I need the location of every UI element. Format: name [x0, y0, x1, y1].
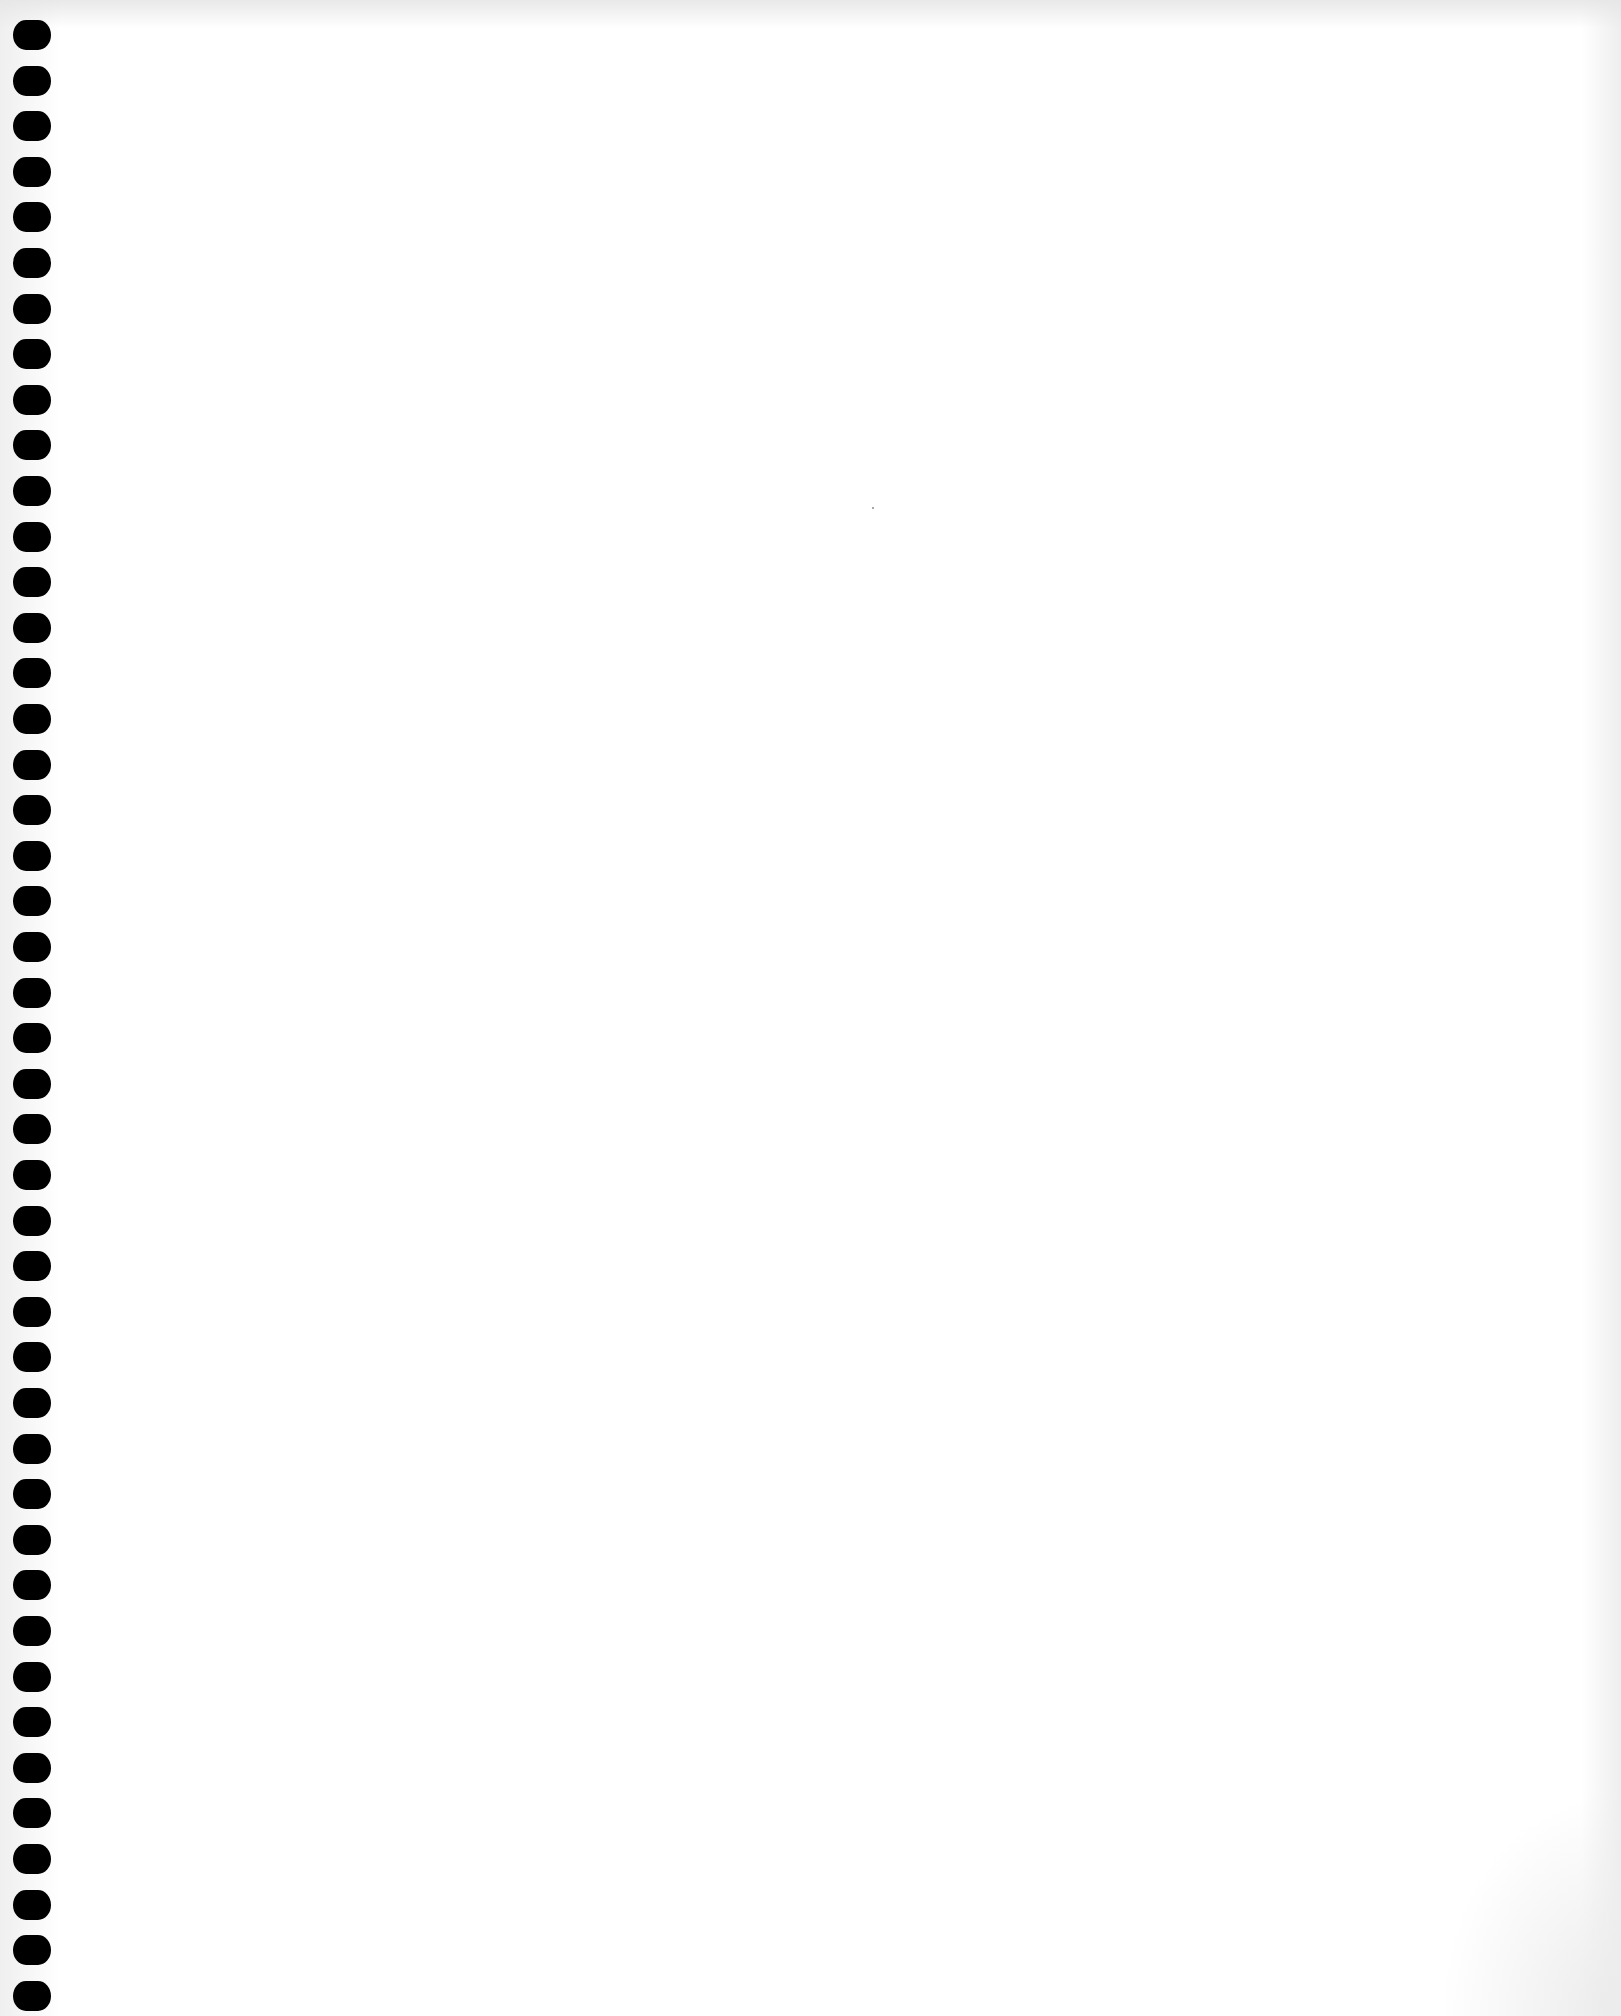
binding-hole — [13, 111, 51, 141]
binding-hole — [13, 1616, 51, 1646]
binding-hole — [13, 613, 51, 643]
binding-hole — [13, 1662, 51, 1692]
binding-hole — [13, 658, 51, 688]
binding-hole — [13, 1342, 51, 1372]
binding-hole — [13, 476, 51, 506]
binding-hole — [13, 1844, 51, 1874]
binding-hole — [13, 1160, 51, 1190]
binding-hole — [13, 1388, 51, 1418]
binding-hole — [13, 841, 51, 871]
binding-hole — [13, 1981, 51, 2011]
binding-hole — [13, 1297, 51, 1327]
binding-hole — [13, 567, 51, 597]
binding-hole — [13, 1114, 51, 1144]
binding-hole — [13, 750, 51, 780]
binding-hole — [13, 1935, 51, 1965]
binding-hole — [13, 1434, 51, 1464]
binding-hole — [13, 1525, 51, 1555]
binding-hole — [13, 1570, 51, 1600]
binding-hole — [13, 385, 51, 415]
binding-hole — [13, 1479, 51, 1509]
binding-hole — [13, 1023, 51, 1053]
binding-hole — [13, 1251, 51, 1281]
binding-hole — [13, 66, 51, 96]
binding-hole — [13, 202, 51, 232]
binding-hole — [13, 1069, 51, 1099]
spiral-binding-holes — [13, 20, 55, 2010]
binding-hole — [13, 294, 51, 324]
binding-hole — [13, 1753, 51, 1783]
binding-hole — [13, 704, 51, 734]
binding-hole — [13, 522, 51, 552]
binding-hole — [13, 157, 51, 187]
binding-hole — [13, 795, 51, 825]
binding-hole — [13, 339, 51, 369]
binding-hole — [13, 1798, 51, 1828]
binding-hole — [13, 1890, 51, 1920]
binding-hole — [13, 886, 51, 916]
binding-hole — [13, 932, 51, 962]
binding-hole — [13, 248, 51, 278]
binding-hole — [13, 1206, 51, 1236]
binding-hole — [13, 978, 51, 1008]
notebook-page — [0, 0, 1621, 2016]
binding-hole — [13, 430, 51, 460]
binding-hole — [13, 1707, 51, 1737]
binding-hole — [13, 20, 51, 50]
paper-speck — [872, 507, 874, 509]
